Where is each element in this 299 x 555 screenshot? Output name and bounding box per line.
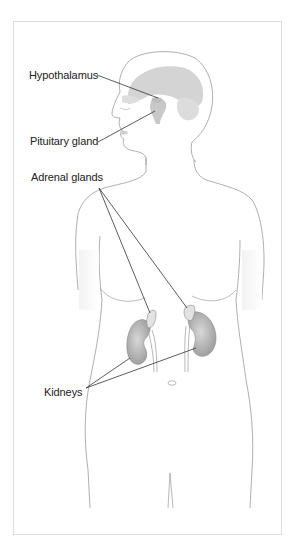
nose-mouth (120, 108, 130, 110)
breast-right (192, 290, 236, 301)
navel (168, 381, 176, 385)
label-kidneys: Kidneys (44, 386, 82, 398)
body-illustration (0, 0, 299, 555)
ureter-right-2 (185, 326, 186, 372)
groin-line (168, 473, 173, 508)
torso-right (236, 200, 264, 508)
label-pituitary-gland: Pituitary gland (30, 135, 98, 147)
kidney-left (127, 320, 150, 365)
label-hypothalamus: Hypothalamus (29, 69, 98, 81)
adrenal-left (147, 310, 156, 328)
torso-left (76, 186, 112, 508)
breast-left (100, 288, 145, 301)
neck-right (194, 160, 252, 200)
lips (120, 131, 128, 135)
label-adrenal-glands: Adrenal glands (31, 171, 103, 183)
ureter-right (188, 324, 190, 372)
neck-left (112, 158, 146, 186)
ureter-left-2 (149, 334, 154, 372)
